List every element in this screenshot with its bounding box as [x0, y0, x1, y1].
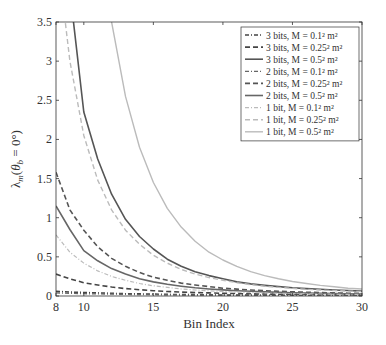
y-tick-label: 3 [46, 54, 52, 68]
y-tick-label: 1 [46, 211, 52, 225]
y-axis-label: λm(θb = 0°) [8, 130, 25, 188]
x-axis-label: Bin Index [183, 316, 235, 331]
legend-entry: 3 bits, M = 0.1² m² [266, 31, 338, 41]
x-tick-label: 15 [147, 300, 159, 314]
legend-entry: 1 bit, M = 0.1² m² [266, 103, 334, 113]
x-tick-label: 10 [78, 300, 90, 314]
legend-entry: 2 bits, M = 0.25² m² [266, 79, 342, 89]
x-tick-label: 8 [53, 300, 59, 314]
y-tick-label: 2 [46, 132, 52, 146]
x-tick-label: 20 [217, 300, 229, 314]
legend-entry: 1 bit, M = 0.25² m² [266, 115, 339, 125]
y-tick-label: 2.5 [37, 93, 52, 107]
y-tick-label: 3.5 [37, 15, 52, 29]
legend-entry: 1 bit, M = 0.5² m² [266, 127, 334, 137]
legend-entry: 2 bits, M = 0.5² m² [266, 91, 338, 101]
legend-entry: 2 bits, M = 0.1² m² [266, 67, 338, 77]
legend: 3 bits, M = 0.1² m²3 bits, M = 0.25² m²3… [241, 27, 359, 141]
y-tick-label: 0 [46, 289, 52, 303]
legend-entry: 3 bits, M = 0.25² m² [266, 43, 342, 53]
x-tick-label: 25 [286, 300, 298, 314]
y-tick-label: 1.5 [37, 172, 52, 186]
x-tick-label: 30 [356, 300, 368, 314]
y-tick-label: 0.5 [37, 250, 52, 264]
chart: 81015202530 00.511.522.533.5 Bin Index λ… [0, 0, 386, 345]
series-line [56, 235, 362, 295]
legend-entry: 3 bits, M = 0.5² m² [266, 55, 338, 65]
